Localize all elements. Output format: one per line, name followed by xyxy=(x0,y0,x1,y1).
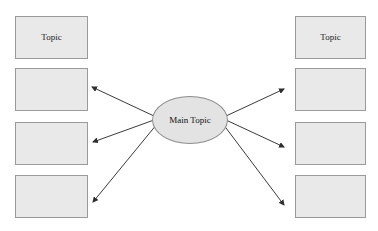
right-topic-box-1[interactable]: Topic xyxy=(295,16,366,59)
diagram-canvas: Topic Topic Main Topic xyxy=(0,0,378,231)
left-topic-box-4[interactable] xyxy=(15,175,88,218)
right-topic-box-2[interactable] xyxy=(295,68,366,111)
arrow-left-lower xyxy=(93,124,157,202)
arrow-right-middle xyxy=(226,120,284,147)
left-topic-box-1[interactable]: Topic xyxy=(15,16,88,59)
right-topic-box-4[interactable] xyxy=(295,175,366,218)
arrow-right-upper xyxy=(226,89,284,116)
arrow-left-upper xyxy=(92,87,154,116)
left-topic-box-2[interactable] xyxy=(15,68,88,111)
right-topic-box-3[interactable] xyxy=(295,122,366,165)
left-topic-box-1-label: Topic xyxy=(41,33,61,42)
arrow-right-lower xyxy=(223,124,284,205)
main-topic-node[interactable]: Main Topic xyxy=(152,96,228,144)
main-topic-label: Main Topic xyxy=(169,116,210,125)
left-topic-box-3[interactable] xyxy=(15,122,88,165)
right-topic-box-1-label: Topic xyxy=(320,33,340,42)
